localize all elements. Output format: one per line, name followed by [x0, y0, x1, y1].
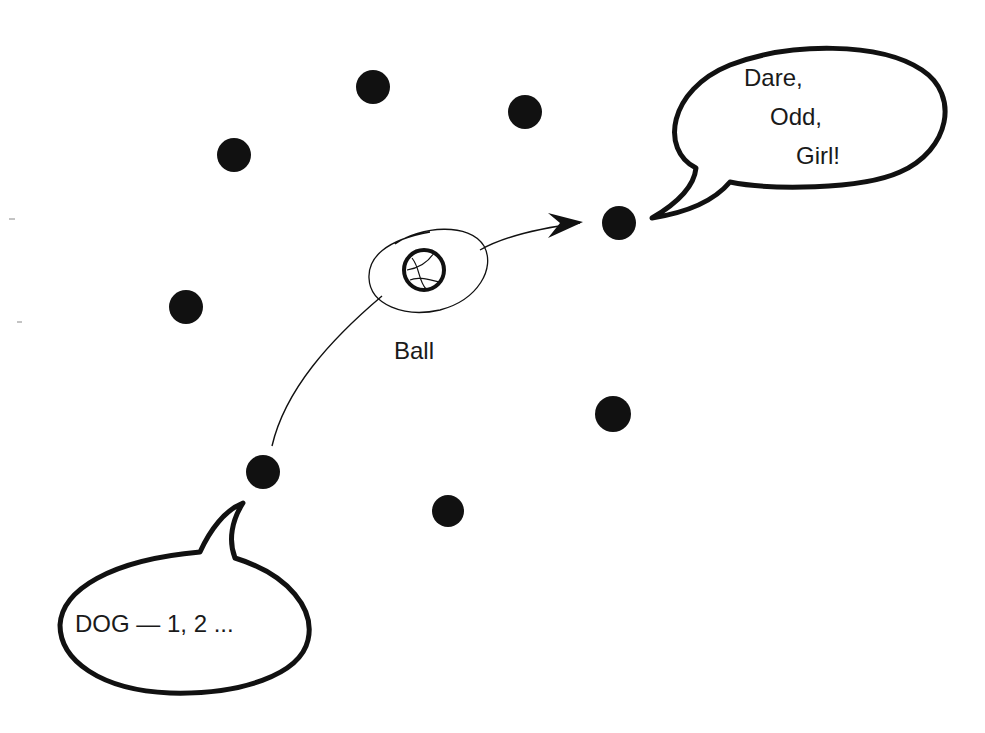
- bubble-bottom-left-text: DOG — 1, 2 ...: [75, 612, 234, 636]
- bubble-top-right-line-3: Girl!: [796, 144, 840, 168]
- player-dot: [356, 70, 390, 104]
- player-dot: [508, 95, 542, 129]
- basketball-icon: [404, 250, 444, 290]
- player-dot: [169, 290, 203, 324]
- players: [169, 70, 636, 527]
- player-dot: [246, 455, 280, 489]
- arrowhead-icon: [548, 213, 583, 238]
- pass-path-in: [272, 296, 382, 446]
- speech-bubble-bottom-left: [60, 503, 309, 693]
- bubble-top-right-line-1: Dare,: [744, 66, 803, 90]
- player-dot: [595, 396, 631, 432]
- ball-label: Ball: [394, 339, 434, 363]
- player-dot: [432, 495, 464, 527]
- player-dot: [217, 138, 251, 172]
- player-dot: [602, 206, 636, 240]
- bubble-top-right-line-2: Odd,: [770, 105, 822, 129]
